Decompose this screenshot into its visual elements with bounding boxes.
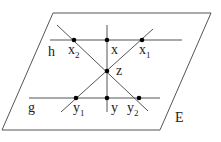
geometry-diagram: h g E x 2 x x 1 z y 1 y y 2 <box>0 0 221 142</box>
point-z <box>105 69 110 74</box>
point-y <box>105 96 110 101</box>
label-y1: y <box>73 100 80 115</box>
label-y2-sub: 2 <box>134 108 139 118</box>
label-x: x <box>111 42 118 57</box>
label-x2: x <box>68 42 75 57</box>
label-y2: y <box>127 100 134 115</box>
label-plane-e: E <box>175 110 184 125</box>
point-x <box>105 38 110 43</box>
label-z: z <box>116 63 122 78</box>
point-y2 <box>137 96 142 101</box>
label-x2-sub: 2 <box>75 50 80 60</box>
label-x1-sub: 1 <box>146 50 151 60</box>
label-y1-sub: 1 <box>80 108 85 118</box>
label-h: h <box>48 44 55 59</box>
label-g: g <box>28 100 35 115</box>
label-y: y <box>111 100 118 115</box>
label-x1: x <box>139 42 146 57</box>
